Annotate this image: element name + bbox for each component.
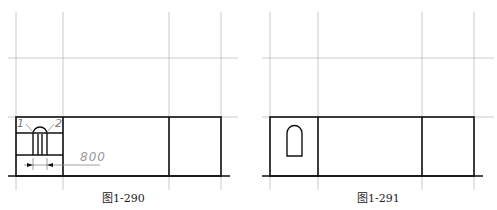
label-2: 2 [55, 117, 62, 130]
grid-lines [262, 12, 494, 190]
figure-1-291 [262, 12, 494, 190]
window-symbol [33, 127, 47, 155]
arched-window [287, 126, 302, 157]
caption-1-291: 图1-291 [357, 189, 400, 205]
caption-1-290: 图1-290 [102, 189, 145, 205]
drawing-canvas [0, 0, 497, 210]
dimension-800: 800 [80, 150, 106, 164]
grid-lines [8, 12, 238, 190]
figure-1-290 [8, 12, 238, 190]
label-1: 1 [17, 117, 24, 130]
